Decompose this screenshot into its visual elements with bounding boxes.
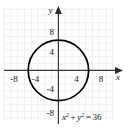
circle-equation: x2+y2=36	[61, 112, 102, 122]
x-tick-label-8: 8	[99, 74, 104, 84]
svg-text:x2+y2=36: x2+y2=36	[61, 112, 102, 122]
equation-y-exponent: 2	[81, 112, 84, 118]
y-tick-label-4: 4	[50, 47, 55, 57]
coordinate-plane: -8 -4 4 8 8 4 -4 -8 y x x2+y2=36	[0, 0, 128, 134]
x-tick-label--8: -8	[10, 74, 18, 84]
x-tick-label-4: 4	[74, 74, 79, 84]
y-axis-arrow	[55, 6, 62, 14]
equation-x-exponent: 2	[66, 112, 69, 118]
x-axis	[4, 67, 123, 74]
equation-plus-operator: +	[71, 112, 76, 122]
graph-figure: -8 -4 4 8 8 4 -4 -8 y x x2+y2=36	[0, 0, 128, 134]
y-axis-label: y	[48, 5, 53, 15]
equation-value: 36	[93, 112, 103, 122]
equation-equals-operator: =	[86, 112, 91, 122]
y-tick-label--4: -4	[47, 84, 55, 94]
y-tick-label--8: -8	[47, 108, 55, 118]
y-axis	[55, 6, 62, 124]
y-tick-label-8: 8	[50, 27, 55, 37]
x-axis-label: x	[115, 72, 120, 82]
x-tick-label--4: -4	[32, 74, 40, 84]
